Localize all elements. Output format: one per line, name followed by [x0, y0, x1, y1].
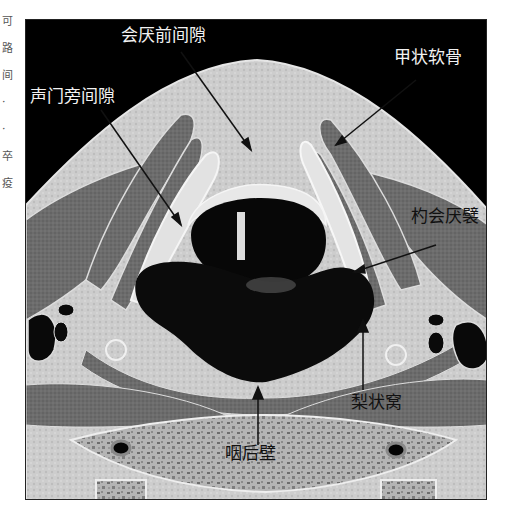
right-carotid-artery [428, 332, 444, 354]
label-pre-epiglottic-space: 会厌前间隙 [121, 25, 206, 45]
margin-char: · [2, 89, 14, 116]
label-thyroid-cartilage: 甲状软骨 [394, 47, 462, 67]
margin-char: 卒 [2, 143, 14, 170]
left-vertebral-artery [112, 441, 130, 455]
label-paraglottic-space: 声门旁间隙 [30, 86, 115, 106]
left-carotid-artery [54, 322, 68, 342]
cropped-margin-text: 可 路 间 · · 卒 疫 [2, 8, 14, 197]
right-vessel-small [428, 314, 444, 326]
margin-char: · [2, 116, 14, 143]
larynx-cross-section-figure: 会厌前间隙 甲状软骨 声门旁间隙 杓会厌襞 梨状窝 咽后壁 [25, 19, 487, 500]
margin-char: 间 [2, 62, 14, 89]
right-vertebral-artery [387, 443, 405, 457]
right-transverse-process [381, 480, 436, 500]
left-internal-jugular-vein [28, 314, 56, 361]
label-posterior-pharyngeal-wall: 咽后壁 [225, 443, 276, 463]
margin-char: 路 [2, 35, 14, 62]
mucosa-highlight [246, 277, 296, 293]
label-piriform-sinus: 梨状窝 [351, 392, 402, 412]
margin-char: 可 [2, 8, 14, 35]
margin-char: 疫 [2, 170, 14, 197]
left-vessel-small [58, 304, 74, 316]
aryepiglottic-highlight [237, 212, 245, 260]
left-transverse-process [96, 480, 146, 500]
label-aryepiglottic-fold: 杓会厌襞 [411, 206, 479, 226]
